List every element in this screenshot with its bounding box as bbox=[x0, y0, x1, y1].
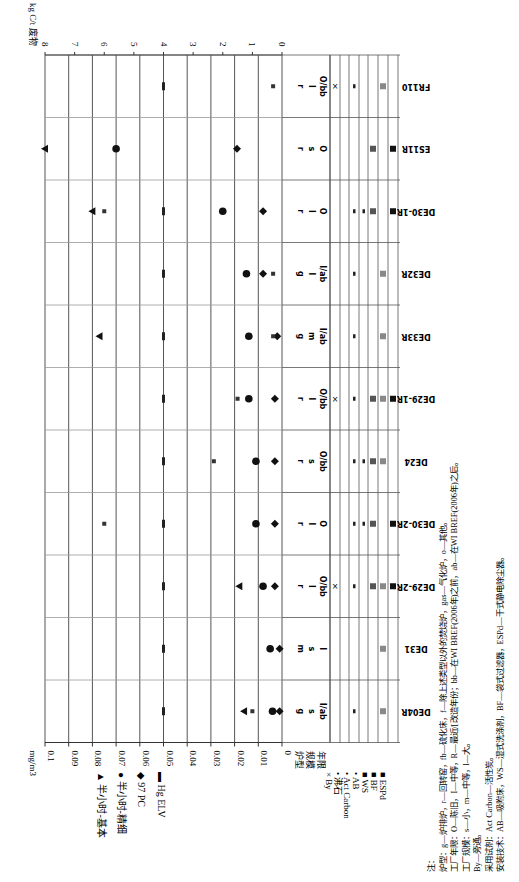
attribute-value: O/bb bbox=[318, 388, 327, 409]
elv-dash-marker bbox=[162, 582, 165, 590]
elv-dash-marker bbox=[162, 395, 165, 403]
category-label: DE33R bbox=[401, 332, 430, 341]
primary-tick-label: 0.01 bbox=[259, 751, 269, 767]
data-markers bbox=[41, 82, 284, 715]
technology-dot bbox=[363, 522, 366, 526]
legend-series-item: ▬ Hg ELV bbox=[156, 772, 167, 819]
diamond-marker bbox=[259, 270, 267, 278]
diamond-marker bbox=[271, 582, 279, 590]
category-attributes: rlO/bbrsOrlOglI/abgmI/abrlO/bbrsO/bbrlOr… bbox=[296, 76, 327, 720]
technology-dot bbox=[353, 272, 356, 276]
category-label: DE29-2R bbox=[397, 582, 435, 591]
technology-dot bbox=[353, 209, 356, 213]
technology-dot bbox=[353, 84, 356, 88]
triangle-marker bbox=[235, 582, 242, 590]
diamond-marker bbox=[271, 457, 279, 465]
attribute-value: r bbox=[296, 397, 305, 401]
attribute-value: r bbox=[296, 459, 305, 463]
note-line: 炉型：g—炉排炉，r—回转窑，fb—硫化床，f—除上述类型以外的焚烧炉，gas—… bbox=[438, 518, 448, 872]
kgc-square-marker bbox=[271, 84, 275, 88]
technology-square bbox=[380, 708, 386, 714]
attribute-value: r bbox=[296, 147, 305, 151]
secondary-tick-label: 6 bbox=[99, 42, 109, 47]
kgc-square-marker bbox=[271, 334, 275, 338]
technology-square bbox=[370, 208, 376, 214]
attribute-value: l bbox=[307, 85, 316, 88]
note-line: 工厂年限：O—陈旧，I—中等，R—最近/[改造年份；bb—在WI BREF(20… bbox=[449, 458, 459, 872]
attribute-value: r bbox=[296, 522, 305, 526]
technology-square bbox=[390, 583, 396, 589]
technology-dot bbox=[353, 709, 356, 713]
primary-tick-label: 0.1 bbox=[46, 751, 56, 762]
attribute-value: l bbox=[307, 210, 316, 213]
note-line: 安装技术：AB—吸附床，WS—湿式洗涤剂，BF—袋式过滤器，ESPd—干式静电除… bbox=[495, 553, 505, 872]
primary-tick-label: 0.07 bbox=[117, 751, 127, 767]
attribute-value: r bbox=[296, 84, 305, 88]
technology-square bbox=[380, 83, 386, 89]
legend-series-item: ● 半小时-精细 bbox=[116, 772, 128, 834]
elv-dash-marker bbox=[162, 707, 165, 715]
secondary-tick-label: 8 bbox=[40, 42, 50, 47]
technology-square bbox=[380, 583, 386, 589]
attribute-value: O/bb bbox=[318, 76, 327, 97]
attribute-value: s bbox=[307, 709, 316, 714]
legend-technology-item: • AB bbox=[351, 772, 361, 789]
secondary-tick-label: 2 bbox=[218, 42, 228, 47]
legend-technology-item: • Act Carbon bbox=[342, 772, 352, 819]
category-label: DE31 bbox=[404, 644, 428, 653]
secondary-tick-label: 5 bbox=[129, 42, 139, 47]
elv-dash-marker bbox=[162, 82, 165, 90]
attribute-value: m bbox=[296, 645, 305, 653]
technology-square bbox=[390, 208, 396, 214]
attribute-value: O/bb bbox=[318, 576, 327, 597]
legend-technology-item: ■ ESPd bbox=[378, 772, 388, 800]
technology-square bbox=[370, 583, 376, 589]
primary-tick-label: 0.06 bbox=[141, 751, 151, 767]
category-label: DE04R bbox=[401, 707, 430, 716]
elv-dash-marker bbox=[162, 270, 165, 278]
circle-marker bbox=[245, 332, 253, 340]
technology-cross: × bbox=[332, 82, 339, 91]
attribute-value: O bbox=[318, 208, 327, 215]
attribute-value: r bbox=[296, 209, 305, 213]
attribute-value: I/ab bbox=[318, 265, 327, 282]
primary-tick-label: 0 bbox=[283, 751, 293, 756]
kgc-square-marker bbox=[250, 709, 254, 713]
category-label: DE30-2R bbox=[397, 519, 435, 528]
technology-square bbox=[380, 396, 386, 402]
category-labels: FR110ES11RDE30-1RDE32RDE33RDE29-1RDE24DE… bbox=[397, 82, 435, 716]
attribute-header: 年限 bbox=[316, 751, 327, 769]
attribute-value: r bbox=[296, 584, 305, 588]
technology-square bbox=[370, 396, 376, 402]
secondary-tick-label: 1 bbox=[247, 42, 257, 47]
triangle-marker bbox=[96, 332, 103, 340]
elv-dash-marker bbox=[162, 207, 165, 215]
attribute-value: l bbox=[307, 397, 316, 400]
elv-dash-marker bbox=[162, 645, 165, 653]
attribute-header: 炉型 bbox=[294, 751, 305, 769]
legend-technology-item: ■ WS bbox=[360, 772, 370, 793]
kgc-square-marker bbox=[212, 459, 216, 463]
primary-tick-label: 0.05 bbox=[165, 751, 175, 767]
elv-dash-marker bbox=[162, 457, 165, 465]
circle-marker bbox=[252, 520, 260, 528]
note-line: 工厂规模：s—小，m—中等，l—大。 bbox=[461, 739, 471, 872]
technology-dot bbox=[353, 584, 356, 588]
legend-technology-item: ■ BF bbox=[369, 772, 379, 791]
technology-square bbox=[370, 146, 376, 152]
secondary-axis-unit: kg C/t 废物 bbox=[28, 3, 39, 46]
technology-square bbox=[380, 333, 386, 339]
circle-marker bbox=[243, 270, 251, 278]
notes: 注：炉型：g—炉排炉，r—回转窑，fb—硫化床，f—除上述类型以外的焚烧炉，ga… bbox=[426, 458, 505, 872]
attribute-value: g bbox=[296, 333, 305, 339]
primary-tick-label: 0.09 bbox=[70, 751, 80, 767]
circle-marker bbox=[219, 207, 227, 215]
technology-square bbox=[380, 271, 386, 277]
attribute-value: g bbox=[296, 708, 305, 714]
technology-dot bbox=[353, 522, 356, 526]
legend-technology-item: × By bbox=[324, 772, 334, 790]
attribute-value: l bbox=[307, 585, 316, 588]
technology-dot bbox=[363, 209, 366, 213]
category-label: FR110 bbox=[401, 82, 430, 91]
attribute-value: s bbox=[307, 459, 316, 464]
